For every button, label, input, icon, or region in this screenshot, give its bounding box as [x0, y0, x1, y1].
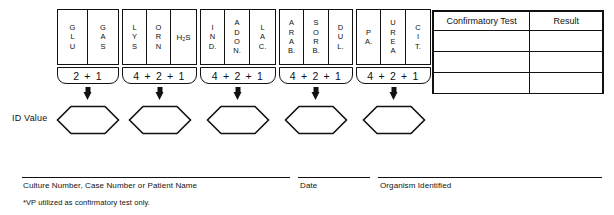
down-arrow-icon [312, 87, 321, 100]
analyte-label-pa: P A. [365, 28, 372, 47]
analyte-cell-orn[interactable]: O R N [147, 10, 171, 64]
analyte-cell-row: I N D.A D O N.L A C. [200, 9, 276, 65]
table-header-row: Confirmatory Test Result [434, 12, 603, 31]
analyte-cell-ind[interactable]: I N D. [201, 10, 225, 64]
analyte-label-lys: L Y S [132, 23, 137, 51]
code-group-1: G L UG A S2 + 1 [57, 9, 119, 84]
down-arrow-icon [155, 87, 164, 100]
group-sum-5: 4 + 2 + 1 [356, 67, 431, 84]
table-row [434, 31, 603, 52]
culture-number-rule [22, 177, 290, 178]
date-caption: Date [300, 181, 317, 190]
culture-number-caption: Culture Number, Case Number or Patient N… [23, 181, 197, 190]
vp-footnote: *VP utilized as confirmatory test only. [23, 198, 150, 207]
analyte-cell-h2s[interactable]: H₂S [171, 10, 196, 64]
down-arrow-icon [84, 87, 93, 100]
organism-identified-caption: Organism Identified [380, 181, 451, 190]
analyte-label-lac: L A C. [259, 23, 267, 51]
analyte-label-gas: G A S [100, 23, 106, 51]
analyte-cell-row: G L UG A S [57, 9, 119, 65]
cell-result[interactable] [530, 31, 603, 52]
analyte-cell-row: A R A B.S O R B.D U L. [279, 9, 353, 65]
analyte-label-arab: A R A B. [288, 18, 295, 56]
group-sum-3: 4 + 2 + 1 [200, 67, 276, 84]
analyte-cell-urea[interactable]: U R E A [381, 10, 406, 64]
analyte-label-adon: A D O N. [233, 18, 241, 56]
column-header-result: Result [530, 12, 603, 31]
code-group-4: A R A B.S O R B.D U L.4 + 2 + 1 [279, 9, 353, 84]
cell-confirmatory-test[interactable] [434, 52, 530, 73]
analyte-cell-lys[interactable]: L Y S [123, 10, 147, 64]
cell-result[interactable] [530, 52, 603, 73]
analyte-cell-dul[interactable]: D U L. [329, 10, 352, 64]
id-value-hexagon-1[interactable] [56, 105, 120, 135]
organism-rule [378, 177, 602, 178]
group-sum-1: 2 + 1 [57, 67, 119, 84]
analyte-label-sorb: S O R B. [312, 18, 319, 56]
group-sum-4: 4 + 2 + 1 [279, 67, 353, 84]
analyte-cell-pa[interactable]: P A. [357, 10, 381, 64]
analyte-cell-adon[interactable]: A D O N. [225, 10, 250, 64]
code-group-2: L Y SO R NH₂S4 + 2 + 1 [122, 9, 197, 84]
analyte-cell-cit[interactable]: C I T. [406, 10, 430, 64]
cell-confirmatory-test[interactable] [434, 73, 530, 94]
analyte-cell-glu[interactable]: G L U [58, 10, 88, 64]
down-arrow-icon [389, 87, 398, 100]
confirmatory-test-table: Confirmatory Test Result [432, 10, 604, 94]
group-sum-2: 4 + 2 + 1 [122, 67, 197, 84]
analyte-label-urea: U R E A [390, 18, 395, 56]
table-row [434, 52, 603, 73]
id-value-hexagon-2[interactable] [128, 105, 192, 135]
analyte-label-h2s: H₂S [176, 33, 190, 42]
column-header-confirmatory-test: Confirmatory Test [434, 12, 530, 31]
code-group-3: I N D.A D O N.L A C.4 + 2 + 1 [200, 9, 276, 84]
analyte-label-cit: C I T. [415, 23, 421, 51]
down-arrow-icon [234, 87, 243, 100]
analyte-coding-strip: G L UG A S2 + 1L Y SO R NH₂S4 + 2 + 1I N… [57, 9, 431, 98]
id-value-hexagon-5[interactable] [362, 105, 426, 135]
analyte-cell-lac[interactable]: L A C. [250, 10, 275, 64]
analyte-label-glu: G L U [70, 23, 76, 51]
analyte-cell-sorb[interactable]: S O R B. [304, 10, 329, 64]
analyte-cell-row: P A.U R E AC I T. [356, 9, 431, 65]
analyte-cell-arab[interactable]: A R A B. [280, 10, 304, 64]
id-value-hexagon-4[interactable] [284, 105, 348, 135]
cell-confirmatory-test[interactable] [434, 31, 530, 52]
id-value-hexagon-3[interactable] [206, 105, 270, 135]
analyte-cell-gas[interactable]: G A S [88, 10, 118, 64]
id-value-label: ID Value [12, 113, 47, 123]
table-row [434, 73, 603, 94]
cell-result[interactable] [530, 73, 603, 94]
code-group-5: P A.U R E AC I T.4 + 2 + 1 [356, 9, 431, 84]
analyte-label-dul: D U L. [337, 23, 343, 51]
analyte-label-orn: O R N [156, 23, 162, 51]
analyte-cell-row: L Y SO R NH₂S [122, 9, 197, 65]
analyte-label-ind: I N D. [209, 23, 217, 51]
date-rule [298, 177, 370, 178]
